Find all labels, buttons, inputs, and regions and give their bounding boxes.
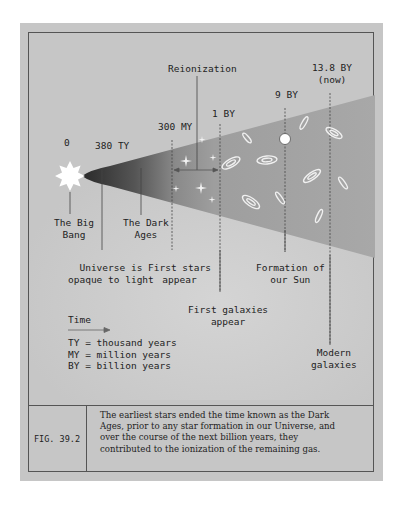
opaque-label-line1: Universe is (68, 262, 154, 274)
legend-item-ty: TY = thousand years (68, 337, 177, 349)
modern-galaxies-label: Modern galaxies (311, 347, 357, 370)
big-bang-label: The Big Bang (54, 217, 94, 240)
first-galaxies-label-line1: First galaxies (188, 304, 268, 316)
reionization-label: Reionization (168, 63, 237, 75)
dark-ages-label-line2: Ages (123, 229, 169, 241)
dark-ages-label: The Dark Ages (123, 217, 169, 240)
legend-title: Time (68, 314, 91, 326)
modern-galaxies-label-line1: Modern (311, 347, 357, 359)
tick-label-1by: 1 BY (212, 108, 235, 120)
legend-item-by: BY = billion years (68, 360, 177, 372)
caption-vertical-divider (86, 405, 87, 472)
tick-label-13-8by-value: 13.8 BY (312, 62, 352, 74)
tick-label-0: 0 (64, 137, 70, 149)
first-stars-label: First stars appear (148, 262, 211, 285)
sun-icon (280, 134, 291, 145)
dark-ages-label-line1: The Dark (123, 217, 169, 229)
tick-label-now: (now) (312, 74, 352, 86)
opaque-label: Universe is opaque to light (68, 262, 154, 285)
modern-galaxies-label-line2: galaxies (311, 359, 357, 371)
first-stars-label-line2: appear (148, 274, 211, 286)
legend-item-my: MY = million years (68, 349, 177, 361)
sun-label-line2: our Sun (256, 274, 325, 286)
big-bang-label-line1: The Big (54, 217, 94, 229)
big-bang-label-line2: Bang (54, 229, 94, 241)
legend-list: TY = thousand years MY = million years B… (68, 337, 177, 372)
first-stars-label-line1: First stars (148, 262, 211, 274)
first-galaxies-label: First galaxies appear (188, 304, 268, 327)
figure-caption: The earliest stars ended the time known … (100, 410, 340, 455)
big-bang-star-icon (55, 161, 85, 191)
sun-label: Formation of our Sun (256, 262, 325, 285)
sun-label-line1: Formation of (256, 262, 325, 274)
tick-label-13-8by: 13.8 BY (now) (312, 62, 352, 85)
tick-label-9by: 9 BY (275, 89, 298, 101)
figure-number: FIG. 39.2 (28, 405, 86, 472)
opaque-label-line2: opaque to light (68, 274, 154, 286)
tick-label-300my: 300 MY (158, 121, 192, 133)
first-galaxies-label-line2: appear (188, 316, 268, 328)
tick-label-380ty: 380 TY (95, 140, 129, 152)
